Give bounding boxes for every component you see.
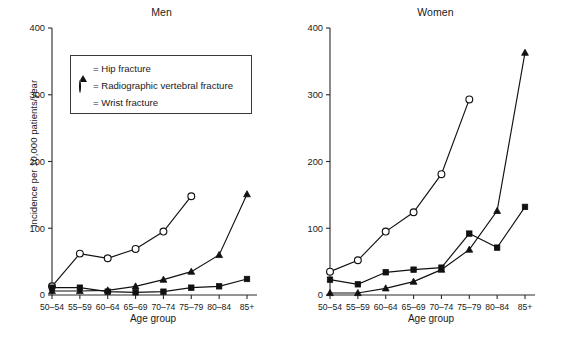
panel-men: Men Incidence per 10,000 patients/year 0…: [0, 0, 287, 338]
svg-text:300: 300: [29, 90, 45, 100]
svg-text:55–59: 55–59: [68, 302, 92, 312]
svg-text:75–79: 75–79: [179, 302, 203, 312]
svg-text:60–64: 60–64: [374, 302, 398, 312]
svg-text:50–54: 50–54: [40, 302, 64, 312]
x-axis-label-men: Age group: [68, 313, 238, 324]
legend-label-hip: = Hip fracture: [93, 63, 151, 74]
svg-text:55–59: 55–59: [346, 302, 370, 312]
svg-text:70–74: 70–74: [429, 302, 453, 312]
svg-text:200: 200: [29, 157, 45, 167]
svg-text:60–64: 60–64: [96, 302, 120, 312]
svg-text:400: 400: [307, 23, 323, 33]
plot-area-men: 010020030040050–5455–5960–6465–6970–7475…: [0, 0, 287, 338]
svg-text:400: 400: [29, 23, 45, 33]
legend-item-wrist: = Wrist fracture: [79, 95, 158, 109]
svg-text:80–84: 80–84: [485, 302, 509, 312]
svg-text:0: 0: [318, 290, 323, 300]
svg-text:100: 100: [29, 224, 45, 234]
square-marker-icon: [79, 98, 88, 107]
triangle-marker-icon: [79, 64, 88, 73]
svg-text:100: 100: [307, 224, 323, 234]
legend-label-wrist: = Wrist fracture: [93, 97, 158, 108]
svg-text:50–54: 50–54: [318, 302, 342, 312]
svg-text:65–69: 65–69: [124, 302, 148, 312]
legend-item-vertebral: = Radiographic vertebral fracture: [79, 78, 233, 92]
svg-text:0: 0: [40, 290, 45, 300]
legend-item-hip: = Hip fracture: [79, 61, 151, 75]
svg-text:200: 200: [307, 157, 323, 167]
svg-text:85+: 85+: [518, 302, 533, 312]
legend: = Hip fracture = Radiographic vertebral …: [70, 55, 252, 114]
x-axis-label-women: Age group: [346, 313, 516, 324]
panel-women: Women 010020030040050–5455–5960–6465–697…: [288, 0, 575, 338]
svg-text:80–84: 80–84: [207, 302, 231, 312]
plot-area-women: 010020030040050–5455–5960–6465–6970–7475…: [288, 0, 575, 338]
circle-marker-icon: [79, 81, 88, 90]
svg-text:300: 300: [307, 90, 323, 100]
legend-label-vertebral: = Radiographic vertebral fracture: [93, 80, 233, 91]
svg-text:85+: 85+: [240, 302, 255, 312]
svg-text:65–69: 65–69: [402, 302, 426, 312]
svg-text:70–74: 70–74: [151, 302, 175, 312]
svg-text:75–79: 75–79: [457, 302, 481, 312]
fracture-incidence-figure: Men Incidence per 10,000 patients/year 0…: [0, 0, 575, 338]
